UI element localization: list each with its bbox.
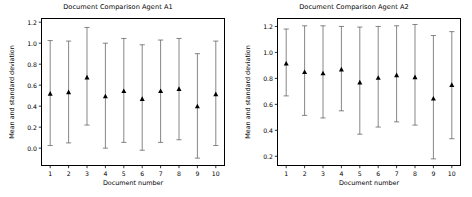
- x-tick-label: 1: [284, 170, 288, 177]
- y-tick-label: 1.0: [249, 49, 273, 56]
- errorbar-point: [449, 32, 454, 139]
- x-tick-label: 2: [303, 170, 307, 177]
- errorbar-point: [431, 36, 436, 159]
- y-axis-label: Mean and standard deviation: [8, 18, 16, 166]
- errorbar-point: [48, 41, 53, 146]
- y-tick-label: 0.4: [13, 103, 37, 110]
- errorbar-point: [357, 27, 362, 134]
- errorbar-point: [66, 41, 71, 143]
- y-tick-label: 1.0: [13, 40, 37, 47]
- x-tick-label: 10: [448, 170, 456, 177]
- errorbar-point: [103, 43, 108, 148]
- x-tick-label: 5: [122, 170, 126, 177]
- x-tick-label: 5: [358, 170, 362, 177]
- x-tick-label: 10: [212, 170, 220, 177]
- x-tick-label: 9: [195, 170, 199, 177]
- y-tick-label: 0.2: [249, 153, 273, 160]
- y-tick-label: 0.0: [13, 145, 37, 152]
- data-layer: [0, 0, 236, 197]
- errorbar-point: [320, 26, 325, 118]
- chart-panel-agent-a1: Document Comparison Agent A1 0.00.20.40.…: [0, 0, 236, 197]
- errorbar-point: [84, 27, 89, 125]
- errorbar-point: [121, 38, 126, 142]
- x-tick-label: 9: [431, 170, 435, 177]
- x-tick-label: 7: [395, 170, 399, 177]
- x-tick-label: 3: [85, 170, 89, 177]
- x-tick-label: 7: [159, 170, 163, 177]
- y-tick-label: 0.6: [249, 101, 273, 108]
- x-tick-label: 8: [413, 170, 417, 177]
- chart-panel-agent-a2: Document Comparison Agent A2 0.20.40.60.…: [236, 0, 472, 197]
- y-tick-label: 0.8: [249, 75, 273, 82]
- y-tick-label: 0.4: [249, 127, 273, 134]
- x-tick-label: 1: [48, 170, 52, 177]
- y-axis-label: Mean and standard deviation: [244, 18, 252, 166]
- errorbar-point: [376, 26, 381, 127]
- y-tick-label: 0.8: [13, 61, 37, 68]
- errorbar-point: [140, 45, 145, 150]
- x-tick-label: 3: [321, 170, 325, 177]
- errorbar-point: [176, 38, 181, 139]
- x-tick-label: 2: [67, 170, 71, 177]
- errorbar-point: [158, 40, 163, 142]
- x-axis-label: Document number: [41, 179, 225, 187]
- x-tick-label: 4: [339, 170, 343, 177]
- errorbar-point: [302, 26, 307, 116]
- x-tick-label: 6: [140, 170, 144, 177]
- x-tick-label: 6: [376, 170, 380, 177]
- y-tick-label: 0.6: [13, 82, 37, 89]
- x-tick-label: 4: [103, 170, 107, 177]
- errorbar-point: [394, 26, 399, 122]
- y-tick-label: 1.2: [13, 19, 37, 26]
- errorbar-point: [213, 41, 218, 145]
- errorbar-point: [339, 26, 344, 110]
- y-tick-label: 0.2: [13, 124, 37, 131]
- errorbar-point: [195, 54, 200, 158]
- errorbar-point: [412, 24, 417, 125]
- x-tick-label: 8: [177, 170, 181, 177]
- errorbar-point: [284, 29, 289, 96]
- figure-canvas: Document Comparison Agent A1 0.00.20.40.…: [0, 0, 472, 197]
- x-axis-label: Document number: [277, 179, 461, 187]
- y-tick-label: 1.2: [249, 23, 273, 30]
